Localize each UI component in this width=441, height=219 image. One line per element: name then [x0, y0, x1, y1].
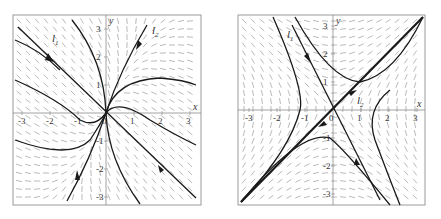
- field-arrow: [52, 180, 58, 182]
- field-arrow: [305, 90, 308, 95]
- field-arrow: [304, 60, 309, 63]
- field-arrow: [289, 114, 290, 120]
- field-arrow: [108, 34, 110, 40]
- field-arrow: [378, 122, 380, 128]
- field-arrow: [287, 163, 292, 167]
- field-arrow: [397, 98, 398, 104]
- field-arrow: [127, 18, 128, 24]
- trajectories: [241, 17, 423, 205]
- field-arrow: [252, 74, 254, 80]
- field-arrow: [134, 187, 137, 192]
- field-arrow: [53, 195, 58, 199]
- field-arrow: [358, 172, 363, 174]
- field-arrow: [35, 67, 39, 71]
- field-arrow: [34, 173, 40, 174]
- field-arrow: [243, 146, 245, 151]
- arrow-icon: [318, 121, 327, 127]
- field-arrow: [80, 91, 84, 95]
- field-arrow: [160, 61, 166, 62]
- field-arrow: [343, 106, 344, 112]
- field-arrow: [358, 44, 364, 46]
- field-arrow: [98, 90, 101, 95]
- field-arrow: [295, 36, 300, 39]
- field-arrow: [143, 195, 146, 200]
- field-arrow: [313, 196, 319, 197]
- field-arrow: [322, 92, 327, 95]
- field-arrow: [322, 45, 328, 46]
- field-arrow: [90, 26, 93, 31]
- field-arrow: [44, 43, 48, 48]
- field-arrow: [16, 189, 22, 190]
- field-arrow: [35, 19, 39, 24]
- field-arrow: [43, 156, 49, 157]
- field-arrow: [243, 138, 245, 144]
- field-arrow: [295, 180, 300, 183]
- field-arrow: [108, 186, 110, 191]
- field-arrow: [124, 100, 130, 102]
- field-arrow: [134, 163, 138, 168]
- field-arrow: [187, 60, 193, 62]
- field-arrow: [151, 76, 157, 77]
- field-arrow: [79, 133, 85, 134]
- field-arrow: [179, 155, 183, 159]
- field-arrow: [404, 35, 408, 39]
- field-arrow: [322, 156, 328, 157]
- field-arrow: [322, 68, 328, 69]
- field-arrow: [313, 156, 319, 158]
- field-arrow: [395, 171, 399, 175]
- field-arrow: [369, 114, 370, 120]
- field-arrow: [350, 131, 355, 135]
- field-arrow: [349, 36, 355, 38]
- field-arrow: [269, 19, 274, 22]
- field-arrow: [322, 21, 328, 22]
- field-arrow: [71, 99, 75, 103]
- field-arrow: [369, 122, 371, 128]
- field-arrow: [396, 74, 399, 79]
- field-arrow: [52, 172, 58, 173]
- field-arrow: [404, 195, 409, 199]
- field-arrow: [43, 196, 48, 199]
- field-arrow: [127, 50, 128, 56]
- field-arrow: [151, 100, 156, 103]
- field-arrow: [187, 76, 192, 79]
- field-arrow: [142, 69, 148, 70]
- field-arrow: [396, 130, 398, 136]
- trajectory: [372, 90, 400, 205]
- field-arrow: [243, 82, 245, 88]
- field-arrow: [406, 98, 407, 104]
- field-arrow: [269, 51, 273, 55]
- field-arrow: [322, 29, 328, 30]
- field-arrow: [108, 194, 110, 200]
- field-arrow: [369, 90, 372, 95]
- field-arrow: [125, 194, 128, 199]
- field-arrow: [313, 164, 319, 166]
- field-arrow: [26, 27, 30, 32]
- y-tick-label: 1: [96, 80, 101, 90]
- field-arrow: [278, 74, 281, 79]
- field-arrow: [161, 147, 165, 151]
- field-arrow: [260, 187, 264, 191]
- field-arrow: [415, 98, 416, 104]
- field-arrow: [99, 186, 101, 192]
- field-arrow: [376, 35, 381, 38]
- field-arrow: [62, 187, 66, 192]
- field-arrow: [118, 58, 119, 64]
- left-phase-portrait: -3-2-10123321-1-2-3 xyl1l2: [0, 0, 220, 219]
- field-arrow: [295, 44, 300, 47]
- field-arrow: [305, 139, 310, 143]
- field-arrow: [304, 156, 309, 159]
- field-arrow: [306, 98, 308, 104]
- field-arrow: [88, 132, 94, 134]
- field-arrow: [386, 67, 390, 72]
- field-arrow: [405, 66, 408, 71]
- field-arrow: [25, 123, 30, 126]
- field-arrow: [242, 187, 246, 191]
- field-arrow: [17, 75, 21, 79]
- field-arrow: [161, 195, 165, 200]
- field-arrow: [116, 131, 120, 136]
- field-arrow: [295, 163, 300, 166]
- field-arrow: [388, 98, 389, 104]
- field-arrow: [143, 123, 148, 127]
- field-arrow: [91, 154, 92, 160]
- field-arrow: [90, 34, 93, 39]
